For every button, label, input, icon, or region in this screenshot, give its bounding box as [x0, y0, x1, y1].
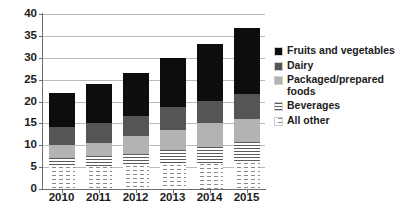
bar-segment-beverages	[234, 142, 260, 163]
bar-segment-all-other	[234, 163, 260, 189]
bar-segment-beverages	[160, 150, 186, 165]
legend-swatch-icon	[274, 76, 283, 85]
legend-item-label: All other	[287, 115, 330, 127]
gridline	[43, 102, 265, 103]
legend-item-label: Dairy	[287, 60, 313, 72]
y-tick-mark	[39, 14, 43, 15]
y-tick-mark	[39, 189, 43, 190]
bar-2015	[234, 28, 260, 189]
x-axis-tick-label: 2015	[234, 192, 260, 204]
bar-segment-fruits-and-vegetables	[160, 58, 186, 107]
gridline	[43, 167, 265, 168]
x-axis-tick-label: 2012	[123, 192, 149, 204]
bar-segment-beverages	[123, 154, 149, 166]
y-tick-mark	[39, 123, 43, 124]
y-tick-mark	[39, 167, 43, 168]
y-axis-tick-label: 20	[24, 96, 37, 108]
chart-legend: Fruits and vegetablesDairyPackaged/prepa…	[274, 45, 402, 129]
legend-item[interactable]: Dairy	[274, 60, 402, 72]
gridline	[43, 123, 265, 124]
bar-2014	[197, 44, 223, 189]
x-axis-line	[42, 189, 266, 190]
bar-segment-all-other	[86, 167, 112, 189]
legend-item[interactable]: Beverages	[274, 100, 402, 112]
y-axis-tick-label: 25	[24, 74, 37, 86]
legend-item[interactable]: All other	[274, 115, 402, 127]
bar-segment-packaged-prepared-foods	[49, 145, 75, 158]
y-tick-mark	[39, 80, 43, 81]
y-tick-mark	[39, 145, 43, 146]
bar-segment-dairy	[234, 94, 260, 119]
y-tick-mark	[39, 36, 43, 37]
bar-segment-dairy	[123, 116, 149, 136]
legend-item-label: Fruits and vegetables	[287, 45, 395, 57]
bar-segment-all-other	[49, 167, 75, 189]
bar-segment-beverages	[49, 158, 75, 167]
y-axis-tick-label: 35	[24, 30, 37, 42]
bar-2010	[49, 93, 75, 189]
x-axis-tick-label: 2010	[49, 192, 75, 204]
y-axis-tick-label: 15	[24, 118, 37, 130]
gridline	[43, 14, 265, 15]
bar-segment-packaged-prepared-foods	[234, 119, 260, 142]
bar-2012	[123, 73, 149, 189]
stacked-bar-chart: 0510152025303540201020112012201320142015…	[0, 0, 405, 217]
legend-item[interactable]: Fruits and vegetables	[274, 45, 402, 57]
bar-segment-dairy	[86, 123, 112, 142]
legend-swatch-icon	[274, 62, 283, 71]
legend-item-label: Packaged/prepared foods	[287, 74, 402, 97]
bar-segment-packaged-prepared-foods	[123, 136, 149, 154]
gridline	[43, 80, 265, 81]
y-tick-mark	[39, 102, 43, 103]
legend-swatch-icon	[274, 117, 283, 126]
bar-segment-dairy	[49, 127, 75, 145]
legend-swatch-icon	[274, 47, 283, 56]
gridline	[43, 145, 265, 146]
bar-segment-packaged-prepared-foods	[197, 123, 223, 147]
gridline	[43, 58, 265, 59]
bar-2013	[160, 58, 186, 189]
bar-segment-fruits-and-vegetables	[86, 84, 112, 124]
y-axis-tick-label: 10	[24, 140, 37, 152]
bar-segment-fruits-and-vegetables	[49, 93, 75, 127]
bar-segment-beverages	[86, 156, 112, 167]
legend-item-label: Beverages	[287, 100, 340, 112]
y-axis-tick-label: 5	[31, 161, 37, 173]
y-axis-tick-label: 30	[24, 52, 37, 64]
plot-area: 0510152025303540201020112012201320142015	[43, 14, 265, 189]
bar-segment-dairy	[160, 107, 186, 130]
bar-segment-fruits-and-vegetables	[197, 44, 223, 100]
bar-segment-dairy	[197, 101, 223, 123]
y-axis-tick-label: 0	[31, 183, 37, 195]
y-axis-tick-label: 40	[24, 8, 37, 20]
gridline	[43, 36, 265, 37]
bar-segment-fruits-and-vegetables	[234, 28, 260, 94]
legend-item[interactable]: Packaged/prepared foods	[274, 74, 402, 97]
bar-2011	[86, 84, 112, 189]
bar-segment-all-other	[123, 166, 149, 189]
bar-segment-all-other	[197, 164, 223, 189]
y-tick-mark	[39, 58, 43, 59]
bar-segment-packaged-prepared-foods	[160, 130, 186, 150]
bar-segment-fruits-and-vegetables	[123, 73, 149, 116]
x-axis-tick-label: 2014	[197, 192, 223, 204]
bar-segment-beverages	[197, 147, 223, 165]
bar-segment-packaged-prepared-foods	[86, 143, 112, 157]
x-axis-tick-label: 2011	[86, 192, 111, 204]
bar-segment-all-other	[160, 165, 186, 189]
x-axis-tick-label: 2013	[160, 192, 186, 204]
legend-swatch-icon	[274, 102, 283, 111]
